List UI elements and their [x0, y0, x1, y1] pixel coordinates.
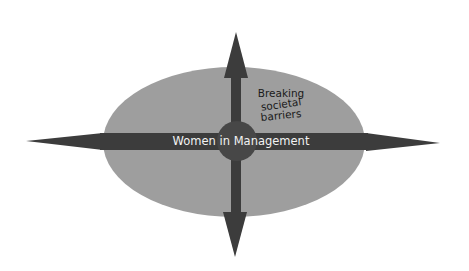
down-arrow-head: [223, 212, 247, 257]
up-arrow-head: [224, 32, 248, 78]
center-label: Women in Management: [166, 133, 316, 150]
left-arrow: [26, 133, 103, 150]
right-arrow: [366, 133, 440, 151]
annotation-breaking-societal-barriers: Breaking societal barriers: [252, 88, 310, 121]
